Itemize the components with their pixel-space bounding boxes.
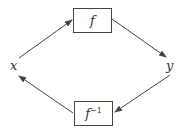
arrow-f-to-y xyxy=(112,19,166,57)
node-f-label: f xyxy=(90,13,95,28)
arrow-x-to-f xyxy=(19,20,72,58)
node-f: f xyxy=(73,8,112,33)
node-f-inverse-label: f−1 xyxy=(85,106,102,121)
node-f-inverse: f−1 xyxy=(74,101,113,126)
arrow-y-to-finv xyxy=(115,75,170,112)
arrow-finv-to-x xyxy=(19,76,73,113)
f-inverse-exponent: −1 xyxy=(90,106,102,115)
node-x: x xyxy=(10,58,17,73)
node-y: y xyxy=(166,58,173,73)
